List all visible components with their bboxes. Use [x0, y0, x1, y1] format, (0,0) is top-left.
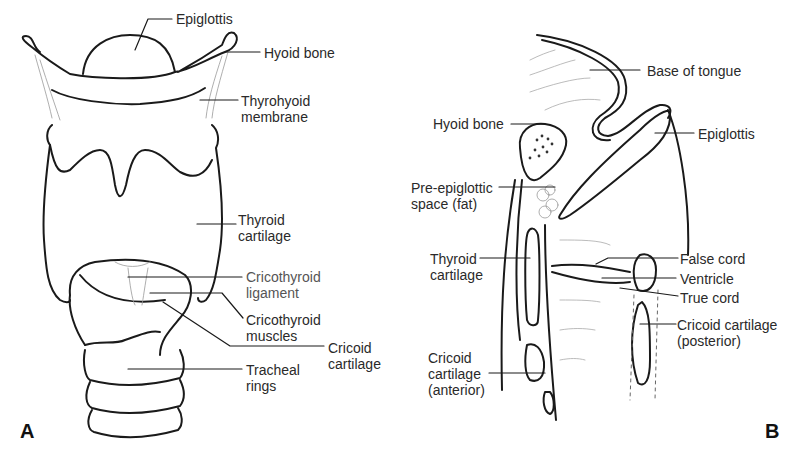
cricoid-anterior-shape — [525, 344, 544, 381]
hyoid-bone-shape — [23, 32, 237, 78]
thyroid-cartilage-shape — [43, 125, 70, 302]
label-b-hyoid-bone: Hyoid bone — [433, 116, 504, 132]
cricoid-cartilage-shape — [70, 260, 191, 355]
label-a-cricothyroid-muscles: Cricothyroidmuscles — [246, 312, 321, 344]
label-b-false-cord: False cord — [680, 251, 745, 267]
label-b-epiglottis: Epiglottis — [698, 126, 755, 142]
cricoid-posterior-shape — [632, 302, 650, 384]
panel-b-drawing — [502, 35, 689, 420]
epiglottis-shape-b — [559, 111, 670, 219]
panel-label-b: B — [765, 420, 779, 443]
label-b-cricoid-anterior: Cricoidcartilage(anterior) — [428, 350, 485, 398]
thyroid-cartilage-shape-b — [525, 229, 539, 326]
label-b-cricoid-posterior: Cricoid cartilage(posterior) — [677, 317, 777, 349]
label-b-base-of-tongue: Base of tongue — [647, 63, 741, 79]
panel-a-drawing — [23, 32, 237, 437]
label-a-thyroid-cartilage: Thyroidcartilage — [238, 212, 291, 244]
label-a-tracheal-rings: Trachealrings — [246, 362, 300, 394]
label-b-true-cord: True cord — [680, 290, 739, 306]
label-a-epiglottis: Epiglottis — [176, 11, 233, 27]
panel-label-a: A — [20, 420, 34, 443]
tracheal-rings-shape — [84, 350, 184, 385]
hyoid-bone-shape-b — [520, 124, 567, 180]
panel-b-leaders — [480, 70, 694, 373]
label-a-thyrohyoid-membrane: Thyrohyoidmembrane — [241, 93, 310, 125]
label-b-ventricle: Ventricle — [680, 271, 734, 287]
epiglottis-shape — [83, 35, 175, 74]
label-b-pre-epiglottic-space: Pre-epiglotticspace (fat) — [411, 180, 493, 212]
label-a-hyoid-bone: Hyoid bone — [264, 45, 335, 61]
label-a-cricothyroid-ligament: Cricothyroidligament — [246, 269, 321, 301]
label-a-cricoid-cartilage: Cricoidcartilage — [328, 340, 381, 372]
label-b-thyroid-cartilage: Thyroidcartilage — [430, 251, 483, 283]
